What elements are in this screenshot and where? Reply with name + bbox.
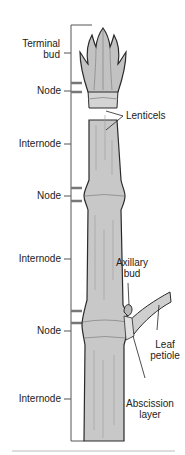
label-lenticels: Lenticels xyxy=(126,110,165,121)
label-abscission-layer: Abscission layer xyxy=(122,398,178,420)
label-node-2: Node xyxy=(10,190,61,201)
label-node-3: Node xyxy=(10,325,61,336)
stem-diagram xyxy=(0,0,185,455)
label-internode-2: Internode xyxy=(5,253,61,264)
leaf-petiole-shape xyxy=(128,292,171,334)
label-node-1: Node xyxy=(10,85,61,96)
label-axillary-bud: Axillary bud xyxy=(112,257,152,279)
abscission-layer-shape xyxy=(124,316,134,340)
stem-body xyxy=(82,120,128,441)
node-band-1 xyxy=(88,90,118,108)
label-leaf-petiole: Leaf petiole xyxy=(145,339,185,361)
label-internode-1: Internode xyxy=(5,138,61,149)
node-ticks xyxy=(71,83,82,323)
label-terminal-bud: Terminal bud xyxy=(10,38,60,60)
label-internode-3: Internode xyxy=(5,393,61,404)
